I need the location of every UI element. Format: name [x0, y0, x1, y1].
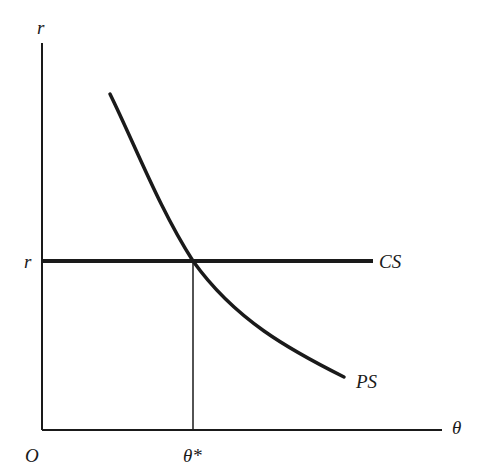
y-axis-label: r: [37, 18, 44, 37]
ps-curve: [110, 94, 344, 377]
ps-label: PS: [356, 372, 377, 391]
diagram-canvas: [0, 0, 485, 475]
cs-label: CS: [379, 252, 401, 271]
diagram: r r CS PS O θ* θ: [0, 0, 485, 475]
r-level-label: r: [24, 252, 31, 271]
x-axis-label: θ: [452, 418, 461, 437]
origin-label: O: [25, 446, 39, 465]
theta-star-label: θ*: [183, 446, 202, 465]
